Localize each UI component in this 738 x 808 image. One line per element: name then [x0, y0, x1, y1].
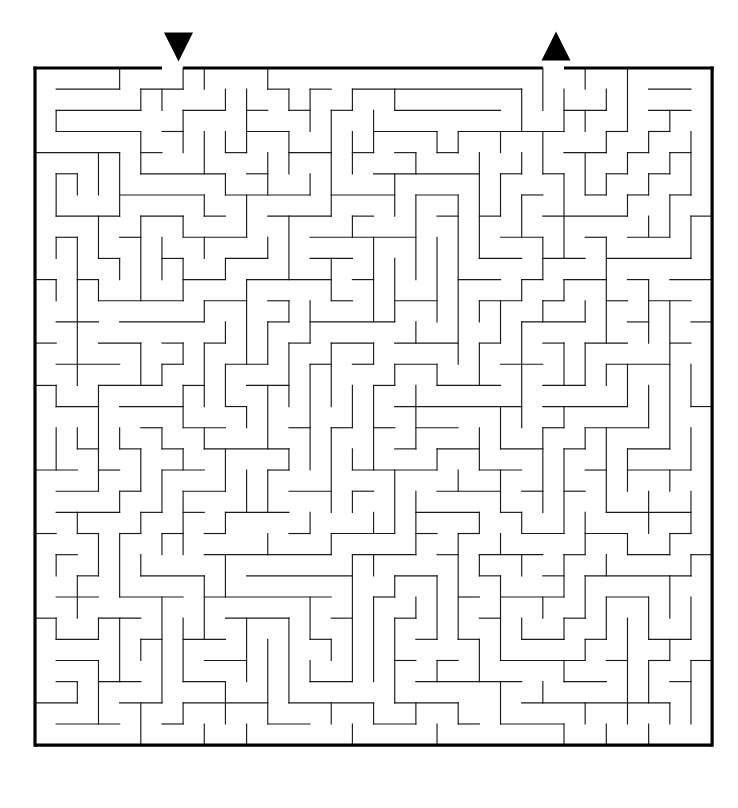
- maze-canvas: [0, 0, 738, 808]
- maze-page: Square grid maze puzzle with a solid bla…: [0, 0, 738, 808]
- maze-figure: [0, 0, 738, 808]
